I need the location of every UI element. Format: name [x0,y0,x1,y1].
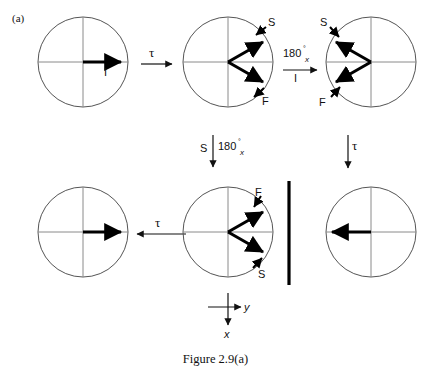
vector-S [228,232,263,252]
transition-tau-top: τ [141,45,172,64]
transition-180x-down: S 180 ° x [200,135,245,167]
vector-label-F: F [255,186,262,198]
transition-180x-top: 180 ° x I [283,45,317,84]
transition-label-degree: ° [238,138,241,145]
circle-top-right: S F [319,16,416,108]
transition-label-tau: τ [149,45,154,60]
vector-F [228,62,263,82]
transition-tau-bottom: τ [137,215,186,234]
vector-label-F: F [319,96,326,108]
circle-bottom-left [38,187,128,277]
vector-diagram-canvas: I τ S F 180 ° x I [0,0,431,378]
transition-label-tau: τ [352,138,357,153]
axis-label-y: y [243,301,251,313]
vector-label-F: F [262,95,269,107]
transition-label-tau: τ [155,215,160,230]
vector-label-S: S [268,16,275,28]
vector-label-S: S [320,16,327,28]
transition-label-sub-x: x [239,148,245,157]
transition-label-180: 180 [283,47,301,59]
vector-F [228,212,263,232]
figure-2-9a: (a) I τ [0,0,431,378]
circle-bottom-right [326,187,416,277]
panel-tag: (a) [12,12,24,24]
vector-label-S: S [258,268,265,280]
vector-F [336,62,371,82]
vector-S [336,42,371,62]
circle-bottom-middle: F S [183,186,273,280]
transition-label-S: S [200,142,207,154]
figure-caption: Figure 2.9(a) [0,352,431,367]
transition-label-sub-x: x [304,55,310,64]
transition-tau-down: τ [348,135,357,168]
transition-label-180: 180 [218,140,236,152]
vector-label-I: I [104,66,107,78]
vector-S [228,42,263,62]
circle-top-left: I [38,17,128,107]
transition-label-I: I [294,72,297,84]
marker-arrow-F [331,87,340,97]
circle-top-middle: S F [183,16,275,107]
transition-label-degree: ° [303,45,306,52]
axis-label-x: x [223,328,230,340]
axes-key: y x [208,293,251,340]
